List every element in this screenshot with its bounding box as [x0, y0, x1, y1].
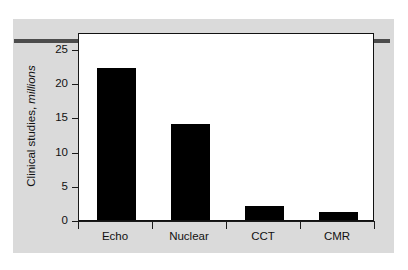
bar-cmr — [319, 212, 358, 220]
x-tick-label: Echo — [78, 231, 152, 243]
plot-surface — [79, 34, 373, 220]
x-tick-mark — [226, 222, 227, 229]
plot-area — [78, 33, 374, 221]
y-tick-mark — [72, 50, 79, 51]
bar-cct — [245, 206, 284, 220]
x-tick-mark — [300, 222, 301, 229]
x-tick-label: Nuclear — [152, 231, 226, 243]
y-tick-mark — [72, 187, 79, 188]
x-tick-label: CMR — [300, 231, 374, 243]
x-tick-mark — [78, 222, 79, 229]
y-tick-label: 5 — [28, 181, 68, 193]
y-tick-mark — [72, 84, 79, 85]
bar-echo — [97, 68, 136, 220]
y-tick-label: 20 — [28, 78, 68, 90]
bar-nuclear — [171, 124, 210, 220]
y-tick-mark — [72, 118, 79, 119]
y-tick-mark — [72, 153, 79, 154]
y-axis-title: Clinical studies, millions — [25, 51, 37, 201]
x-tick-mark — [152, 222, 153, 229]
y-axis-line — [78, 33, 79, 222]
y-tick-label: 0 — [28, 215, 68, 227]
y-tick-label: 25 — [28, 44, 68, 56]
x-tick-mark — [374, 222, 375, 229]
x-tick-label: CCT — [226, 231, 300, 243]
y-tick-label: 10 — [28, 147, 68, 159]
figure: Clinical studies, millions 0510152025Ech… — [0, 0, 408, 270]
y-tick-label: 15 — [28, 112, 68, 124]
